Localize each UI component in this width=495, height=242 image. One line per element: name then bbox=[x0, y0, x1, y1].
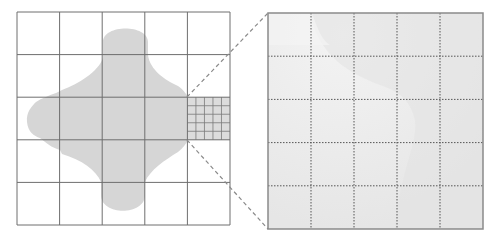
diagram-svg bbox=[0, 0, 495, 242]
refined-cell bbox=[187, 97, 230, 140]
connector-bottom bbox=[187, 140, 268, 229]
blob-shape bbox=[27, 29, 188, 211]
magnified-view bbox=[268, 13, 483, 229]
diagram-canvas bbox=[0, 0, 495, 242]
